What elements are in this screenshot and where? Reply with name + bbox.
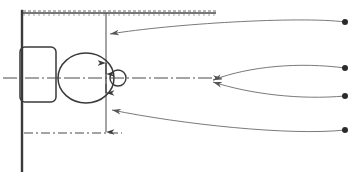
leader-callout-2 [213,65,348,80]
top-dimension-line [23,11,216,15]
technical-drawing-canvas [0,0,354,172]
leader-endpoint-dot [342,19,348,25]
drawing-svg [0,0,354,172]
leader-callout-4 [112,110,348,133]
leader-endpoint-dot [342,93,348,99]
leader-endpoint-dot [342,65,348,71]
leader-callout-1 [110,19,348,34]
leader-callout-3 [213,82,348,99]
cistern-tank [20,47,56,102]
leader-endpoint-dot [342,127,348,133]
